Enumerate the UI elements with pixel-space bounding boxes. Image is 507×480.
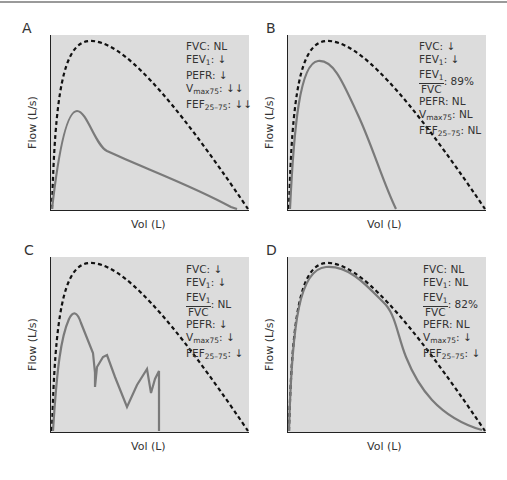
- x-axis-label: Vol (L): [131, 218, 166, 231]
- x-axis-label: Vol (L): [367, 218, 402, 231]
- panel-letter: C: [24, 242, 34, 258]
- panel-letter: B: [266, 20, 276, 36]
- panel-letter: D: [266, 242, 277, 258]
- y-axis-label: Flow (L/s): [263, 96, 276, 149]
- x-axis-label: Vol (L): [131, 440, 166, 453]
- y-axis-label: Flow (L/s): [26, 96, 39, 149]
- top-border: [0, 1, 507, 3]
- annotation-block: FVC: ↓ FEV1: ↓ FEV1FVC: NL PEFR: ↓ Vmax7…: [186, 263, 243, 364]
- annotation-block: FVC: ↓ FEV1: ↓ FEV1FVC: 89% PEFR: NL Vma…: [419, 40, 481, 141]
- y-axis-label: Flow (L/s): [26, 318, 39, 371]
- annotation-block: FVC: NL FEV1: NL FEV1FVC: 82% PEFR: NL V…: [423, 263, 480, 364]
- x-axis-label: Vol (L): [367, 440, 402, 453]
- annotation-block: FVC: NL FEV1: ↓ PEFR: ↓ Vmax75: ↓↓ FEF25…: [186, 40, 252, 115]
- y-axis-label: Flow (L/s): [263, 318, 276, 371]
- panel-letter: A: [22, 20, 32, 36]
